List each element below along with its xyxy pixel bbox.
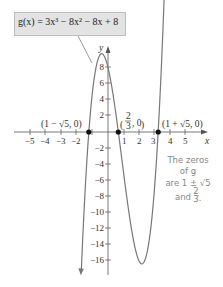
svg-text:2: 2 [137, 136, 142, 146]
zeros-annotation: The zeros of g are 1 ± √5 and 2 3 . [165, 155, 210, 204]
svg-text:2: 2 [100, 110, 105, 120]
svg-text:): ) [141, 120, 144, 131]
svg-text:−8: −8 [94, 191, 104, 201]
svg-text:−12: −12 [90, 223, 104, 233]
y-axis-label: y [98, 43, 104, 53]
graph: x y −5 −4 −3 −2 1 2 3 4 5 [0, 0, 223, 287]
x-axis-arrow-icon [201, 130, 208, 135]
x-axis-label: x [204, 136, 210, 146]
zero-label-middle: ( 2 3 , 0 ) [120, 111, 144, 131]
svg-text:−4: −4 [94, 159, 104, 169]
svg-text:1: 1 [122, 136, 127, 146]
svg-text:8: 8 [100, 62, 105, 72]
svg-text:of g: of g [180, 166, 196, 176]
svg-text:(: ( [120, 120, 123, 131]
svg-text:4: 4 [100, 94, 105, 104]
y-axis-arrow-icon [106, 46, 111, 53]
svg-text:4: 4 [168, 136, 173, 146]
zero-point-middle [116, 129, 121, 134]
svg-text:−2: −2 [71, 136, 81, 146]
svg-text:3: 3 [126, 121, 131, 131]
svg-text:The zeros: The zeros [166, 155, 209, 165]
zero-label-left: (1 − √5, 0) [41, 119, 82, 130]
svg-text:−3: −3 [56, 136, 66, 146]
svg-text:and: and [175, 192, 191, 202]
svg-text:−4: −4 [40, 136, 50, 146]
curve-arrow-down-icon [78, 268, 84, 275]
svg-text:2: 2 [126, 111, 131, 121]
x-tick-labels: −5 −4 −3 −2 1 2 3 4 5 [25, 136, 188, 146]
svg-text:−2: −2 [94, 143, 104, 153]
svg-text:−16: −16 [90, 255, 105, 265]
svg-text:.: . [199, 193, 202, 203]
svg-text:3: 3 [151, 136, 156, 146]
svg-text:−14: −14 [90, 239, 105, 249]
svg-text:6: 6 [100, 78, 105, 88]
svg-text:−6: −6 [94, 175, 104, 185]
zero-point-left [86, 129, 91, 134]
svg-text:−10: −10 [90, 207, 105, 217]
zero-point-right [156, 129, 161, 134]
zero-label-right: (1 + √5, 0) [162, 119, 203, 130]
svg-text:5: 5 [183, 136, 188, 146]
svg-text:−5: −5 [25, 136, 35, 146]
svg-text:are 1 ± √5: are 1 ± √5 [165, 178, 210, 188]
callout-pointer [78, 36, 92, 63]
